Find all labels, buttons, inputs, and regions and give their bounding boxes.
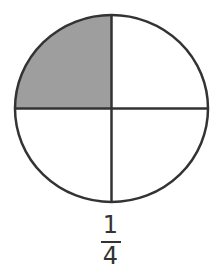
fraction-circle xyxy=(0,0,221,210)
fraction-numerator: 1 xyxy=(0,212,221,238)
shaded-quarter xyxy=(15,15,112,109)
fraction-denominator: 4 xyxy=(0,243,221,269)
